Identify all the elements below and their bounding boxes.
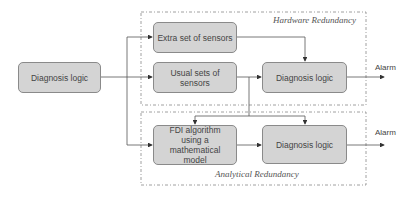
extra-sensors-block: Extra set of sensors (153, 22, 237, 53)
analytical-diagnosis-logic-block: Diagnosis logic (262, 125, 347, 164)
hardware-alarm-label: Alarm (375, 63, 396, 72)
hardware-redundancy-label: Hardware Redundancy (273, 15, 356, 25)
usual-sensors-block: Usual sets of sensors (153, 62, 237, 93)
analytical-redundancy-label: Analytical Redundancy (215, 169, 299, 179)
source-diagnosis-logic-block: Diagnosis logic (18, 62, 101, 93)
hardware-diagnosis-logic-block: Diagnosis logic (262, 62, 347, 93)
analytical-alarm-label: Alarm (375, 128, 396, 137)
fdi-algorithm-block: FDI algorithm using a mathematical model (153, 125, 237, 165)
arrow-extra-to-hw-diagnosis (237, 37, 305, 61)
arrow-to-an-diagnosis-top (249, 116, 305, 124)
arrow-to-fdi-top (195, 116, 249, 124)
